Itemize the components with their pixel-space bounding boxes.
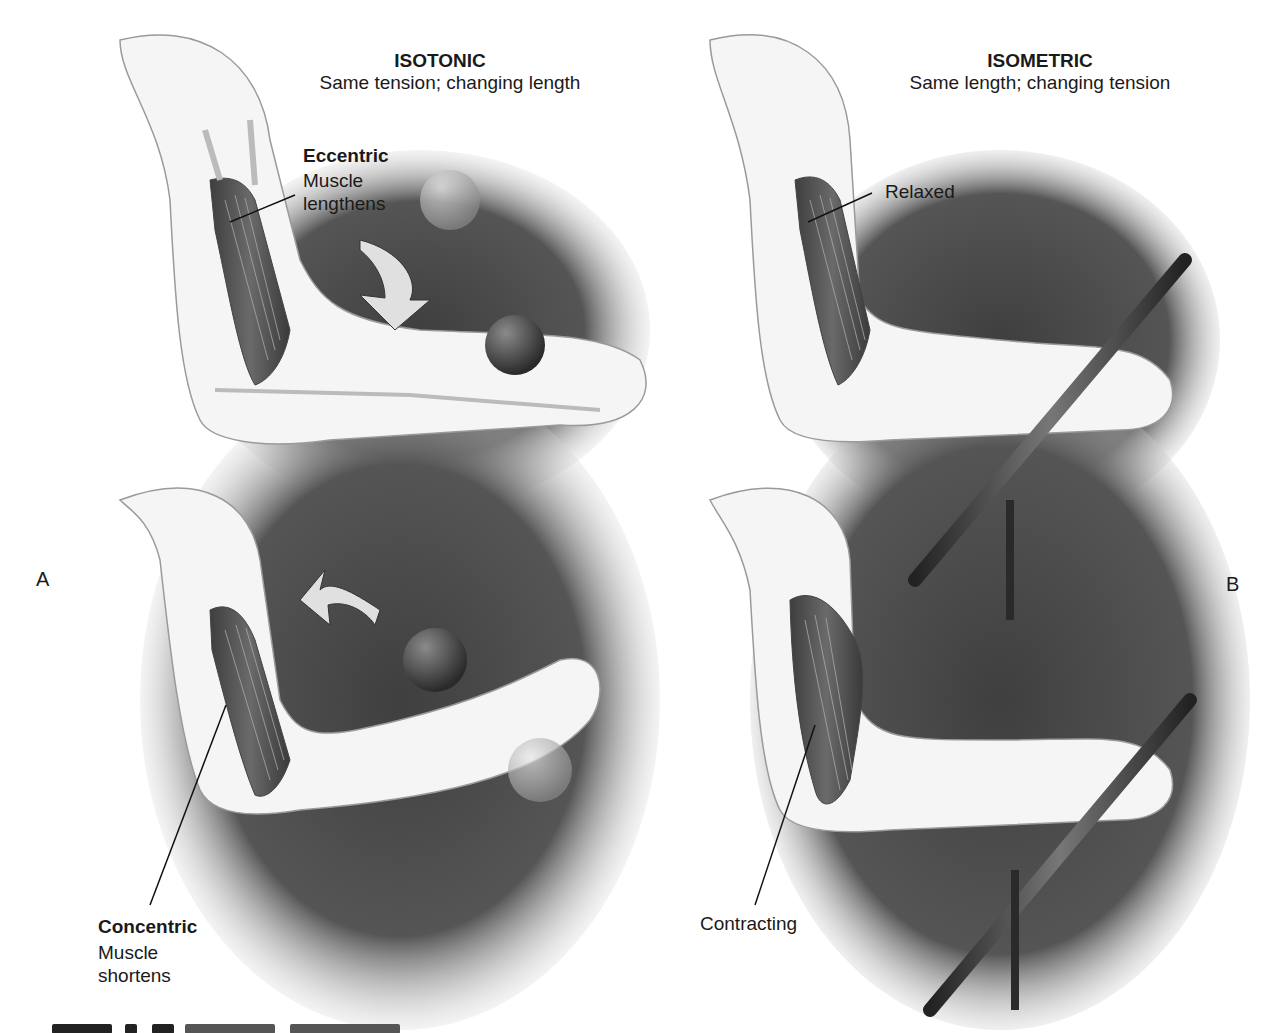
ghost-ball-icon	[508, 738, 572, 802]
panel-letter-b: B	[1226, 573, 1239, 596]
isometric-subtitle: Same length; changing tension	[890, 72, 1190, 94]
concentric-line1: Muscle	[98, 942, 158, 964]
eccentric-line1: Muscle	[303, 170, 363, 192]
figure-caption-clipped	[0, 1021, 700, 1033]
concentric-line2: shortens	[98, 965, 171, 987]
isotonic-title: ISOTONIC	[340, 50, 540, 72]
ghost-ball-icon	[420, 170, 480, 230]
isotonic-subtitle: Same tension; changing length	[300, 72, 600, 94]
concentric-heading: Concentric	[98, 916, 197, 938]
muscle-contraction-figure: ISOTONIC Same tension; changing length E…	[0, 0, 1274, 1033]
ball-icon	[403, 628, 467, 692]
eccentric-heading: Eccentric	[303, 145, 389, 167]
isometric-title: ISOMETRIC	[940, 50, 1140, 72]
illustration-canvas	[0, 0, 1274, 1033]
contracting-label: Contracting	[700, 913, 797, 935]
relaxed-label: Relaxed	[885, 181, 955, 203]
panel-letter-a: A	[36, 568, 49, 591]
eccentric-line2: lengthens	[303, 193, 385, 215]
ball-icon	[485, 315, 545, 375]
